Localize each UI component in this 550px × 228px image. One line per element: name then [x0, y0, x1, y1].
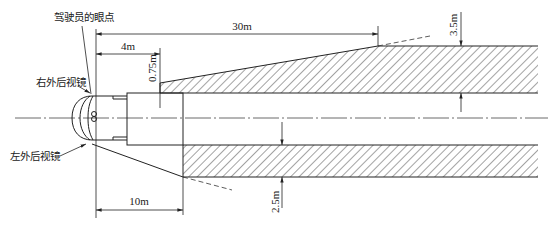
vehicle-outline	[72, 93, 183, 145]
lower-field-hatched-area	[183, 145, 538, 190]
right-mirror-callout: 右外后视镜	[36, 76, 90, 93]
dimension-4m: 4m	[96, 40, 160, 54]
svg-text:30m: 30m	[232, 20, 252, 32]
upper-field-hatched-area	[160, 36, 538, 93]
svg-text:2.5m: 2.5m	[269, 190, 281, 213]
svg-text:4m: 4m	[121, 40, 136, 52]
dimension-0-75m: 0.75m	[146, 54, 158, 82]
svg-text:0.75m: 0.75m	[146, 54, 158, 82]
left-mirror-sightline	[92, 144, 183, 177]
mirror-field-of-view-diagram: 30m 4m 0.75m 3.5m 2.5m 10m 驾驶员的眼点 右外后视镜 …	[0, 0, 550, 228]
left-mirror-callout: 左外后视镜	[10, 144, 86, 162]
svg-text:驾驶员的眼点: 驾驶员的眼点	[54, 11, 114, 23]
svg-text:3.5m: 3.5m	[447, 13, 459, 36]
dimension-10m: 10m	[96, 195, 183, 210]
svg-text:左外后视镜: 左外后视镜	[10, 150, 61, 162]
svg-text:右外后视镜: 右外后视镜	[36, 76, 87, 88]
dimension-30m: 30m	[96, 20, 378, 34]
svg-text:10m: 10m	[129, 195, 149, 207]
